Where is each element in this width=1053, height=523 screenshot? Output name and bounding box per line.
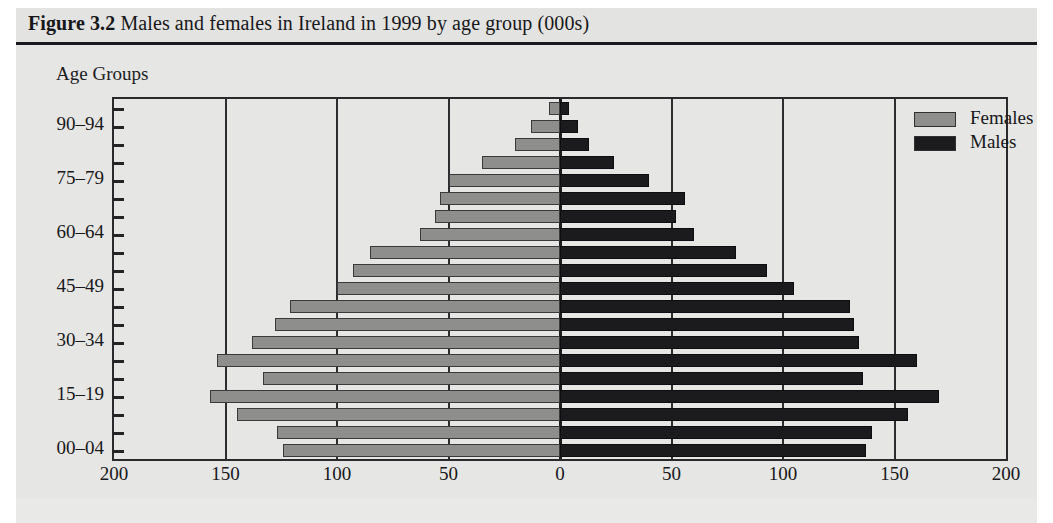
gridline-100 (336, 99, 338, 459)
bar-female (449, 174, 561, 187)
y-axis-label: 75–79 (57, 167, 105, 189)
figure-footer-strip (16, 497, 1037, 523)
bar-male (560, 174, 649, 187)
bar-female (263, 372, 560, 385)
bar-row (114, 102, 1006, 115)
bar-row (114, 390, 1006, 403)
bar-male (560, 210, 676, 223)
y-axis-label: 00–04 (57, 437, 105, 459)
y-axis-labels: 00–0415–1930–3445–4960–6475–7990–94 (16, 97, 104, 461)
bar-female (435, 210, 560, 223)
bar-male (560, 444, 866, 457)
x-axis-label: 150 (880, 463, 909, 485)
y-axis-tick (113, 450, 124, 453)
bar-male (560, 282, 794, 295)
bar-row (114, 120, 1006, 133)
y-axis-tick (113, 162, 124, 165)
x-axis-label: 150 (211, 463, 240, 485)
plot-area: FemalesMales (112, 97, 1008, 461)
bar-male (560, 372, 863, 385)
y-axis-label: 45–49 (57, 275, 105, 297)
bar-male (560, 264, 767, 277)
bar-row (114, 210, 1006, 223)
y-axis-label: 15–19 (57, 383, 105, 405)
figure-population-pyramid: Figure 3.2 Males and females in Ireland … (0, 0, 1053, 523)
bar-row (114, 228, 1006, 241)
axis-center-line (559, 99, 562, 459)
bar-male (560, 192, 685, 205)
figure-caption: Males and females in Ireland in 1999 by … (115, 12, 589, 34)
y-axis-title: Age Groups (56, 63, 148, 85)
y-axis-tick (113, 324, 124, 327)
gridline-150 (894, 99, 896, 459)
bar-male (560, 426, 872, 439)
bar-male (560, 138, 589, 151)
y-axis-tick (113, 414, 124, 417)
bar-female (440, 192, 560, 205)
bar-row (114, 282, 1006, 295)
y-axis-tick (113, 198, 124, 201)
y-axis-label: 60–64 (57, 221, 105, 243)
gridline-100 (782, 99, 784, 459)
x-axis-label: 0 (555, 463, 565, 485)
bar-female (515, 138, 560, 151)
x-axis-label: 100 (769, 463, 798, 485)
page-title: Figure 3.2 Males and females in Ireland … (28, 12, 589, 35)
y-axis-tick (113, 144, 124, 147)
bar-female (353, 264, 560, 277)
bar-row (114, 264, 1006, 277)
bar-row (114, 138, 1006, 151)
y-axis-tick (113, 180, 124, 183)
x-axis-label: 200 (100, 463, 129, 485)
y-axis-tick (113, 252, 124, 255)
bar-row (114, 444, 1006, 457)
y-axis-tick (113, 216, 124, 219)
bar-female (337, 282, 560, 295)
y-axis-tick (113, 288, 124, 291)
bar-female (420, 228, 560, 241)
bar-female (290, 300, 560, 313)
bar-male (560, 102, 569, 115)
bar-row (114, 174, 1006, 187)
x-axis-label: 50 (662, 463, 681, 485)
bar-row (114, 408, 1006, 421)
y-axis-tick (113, 396, 124, 399)
bar-female (252, 336, 560, 349)
y-axis-label: 30–34 (57, 329, 105, 351)
bar-female (549, 102, 560, 115)
bar-row (114, 192, 1006, 205)
bar-male (560, 156, 614, 169)
gridline-50 (671, 99, 673, 459)
bar-row (114, 426, 1006, 439)
y-axis-tick (113, 126, 124, 129)
bar-row (114, 300, 1006, 313)
bar-row (114, 318, 1006, 331)
bar-male (560, 354, 917, 367)
bar-male (560, 390, 939, 403)
y-axis-tick (113, 108, 124, 111)
x-axis-label: 100 (323, 463, 352, 485)
bar-male (560, 228, 694, 241)
bar-female (482, 156, 560, 169)
figure-number: Figure 3.2 (28, 12, 115, 34)
bar-female (277, 426, 560, 439)
x-axis-label: 50 (439, 463, 458, 485)
gridline-150 (225, 99, 227, 459)
figure-title-bar: Figure 3.2 Males and females in Ireland … (16, 8, 1037, 44)
bar-female (283, 444, 560, 457)
bars-container (114, 99, 1006, 459)
x-axis-label: 200 (992, 463, 1021, 485)
bar-row (114, 336, 1006, 349)
gridline-50 (448, 99, 450, 459)
bar-female (210, 390, 560, 403)
bar-male (560, 318, 854, 331)
y-axis-tick (113, 342, 124, 345)
y-axis-tick (113, 234, 124, 237)
legend-swatch (914, 136, 956, 151)
bar-male (560, 336, 859, 349)
chart-panel: Age Groups 00–0415–1930–3445–4960–6475–7… (16, 45, 1037, 497)
bar-row (114, 156, 1006, 169)
legend-label: Females (970, 107, 1033, 129)
legend-swatch (914, 112, 956, 127)
y-axis-label: 90–94 (57, 113, 105, 135)
